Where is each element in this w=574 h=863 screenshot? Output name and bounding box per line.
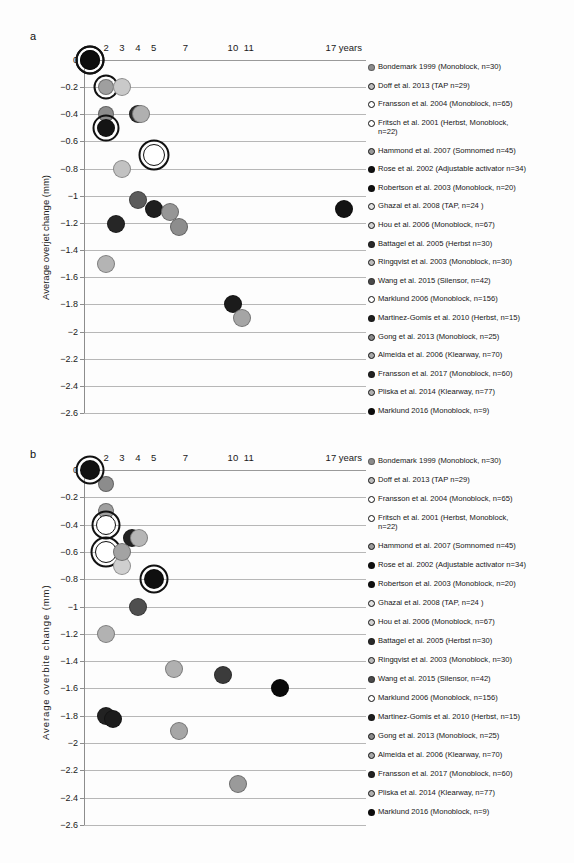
data-point-marker bbox=[335, 200, 353, 218]
gridline bbox=[84, 277, 366, 278]
legend-item-label: Wang et al. 2015 (Silensor, n=42) bbox=[378, 276, 491, 285]
y-axis-tick-label: −1.6 bbox=[44, 684, 78, 693]
legend-marker-icon bbox=[368, 638, 375, 645]
gridline bbox=[84, 497, 366, 498]
legend-marker-icon bbox=[368, 752, 375, 759]
y-axis-tick-label: −0.6 bbox=[44, 547, 78, 556]
legend-item-label: Bondemark 1999 (Monoblock, n=30) bbox=[378, 456, 501, 465]
gridline bbox=[84, 579, 366, 580]
panel-b-plot-area bbox=[84, 470, 366, 825]
legend-item: Fritsch et al. 2001 (Herbst, Monoblock, … bbox=[368, 118, 574, 136]
legend-item-label: Ringqvist et al. 2003 (Monoblock, n=30) bbox=[378, 257, 512, 266]
y-axis-tick-label: −2.2 bbox=[44, 766, 78, 775]
y-axis-tick-mark bbox=[80, 413, 84, 414]
legend-marker-icon bbox=[368, 371, 375, 378]
data-point-marker bbox=[229, 775, 247, 793]
y-axis-tick-label: −1 bbox=[44, 191, 78, 200]
data-point-marker bbox=[97, 625, 115, 643]
legend-item: Gong et al. 2013 (Monoblock, n=25) bbox=[368, 332, 574, 341]
gridline bbox=[84, 223, 366, 224]
data-point-marker bbox=[130, 529, 148, 547]
legend-item-label: Pliska et al. 2014 (Klearway, n=77) bbox=[378, 387, 495, 396]
legend-item: Wang et al. 2015 (Silensor, n=42) bbox=[368, 674, 574, 683]
gridline bbox=[84, 716, 366, 717]
legend-marker-icon bbox=[368, 120, 375, 127]
legend-item-label: Marklund 2016 (Monoblock, n=9) bbox=[378, 406, 489, 415]
legend-item-label: Fransson et al. 2017 (Monoblock, n=60) bbox=[378, 769, 512, 778]
x-axis-tick-label: 2 bbox=[104, 43, 109, 53]
legend-item: Almeida et al. 2006 (Klearway, n=70) bbox=[368, 350, 574, 359]
y-axis-tick-label: −0.2 bbox=[44, 493, 78, 502]
y-axis-tick-label: −2 bbox=[44, 739, 78, 748]
legend-item-label: Fransson et al. 2004 (Monoblock, n=65) bbox=[378, 99, 512, 108]
legend-item-label: Robertson et al. 2003 (Monoblock, n=20) bbox=[378, 579, 516, 588]
y-axis-tick-label: −2.4 bbox=[44, 381, 78, 390]
y-axis-tick-label: 0 bbox=[44, 56, 78, 65]
data-point-marker bbox=[104, 710, 122, 728]
legend-marker-icon bbox=[368, 477, 375, 484]
legend-item-label: Gong et al. 2013 (Monoblock, n=25) bbox=[378, 731, 499, 740]
y-axis-tick-label: −2.6 bbox=[44, 409, 78, 418]
y-axis-tick-label: −0.8 bbox=[44, 164, 78, 173]
legend-item: Fransson et al. 2017 (Monoblock, n=60) bbox=[368, 769, 574, 778]
gridline bbox=[84, 634, 366, 635]
gridline bbox=[84, 470, 366, 471]
y-axis-tick-label: −1 bbox=[44, 602, 78, 611]
legend-item: Fransson et al. 2004 (Monoblock, n=65) bbox=[368, 494, 574, 503]
legend-item-label: Hou et al. 2006 (Monoblock, n=67) bbox=[378, 617, 495, 626]
legend-item-label: Wang et al. 2015 (Silensor, n=42) bbox=[378, 674, 491, 683]
legend-marker-icon bbox=[368, 458, 375, 465]
gridline bbox=[84, 250, 366, 251]
legend-item-label: Gong et al. 2013 (Monoblock, n=25) bbox=[378, 332, 499, 341]
legend-item: Rose et al. 2002 (Adjustable activator n… bbox=[368, 164, 574, 173]
legend-item: Fransson et al. 2004 (Monoblock, n=65) bbox=[368, 99, 574, 108]
x-axis-tick-label: 11 bbox=[244, 43, 254, 53]
legend-marker-icon bbox=[368, 657, 375, 664]
legend-item: Marklund 2006 (Monoblock, n=156) bbox=[368, 294, 574, 303]
y-axis-tick-label: −0.4 bbox=[44, 110, 78, 119]
y-axis-tick-label: −1.2 bbox=[44, 629, 78, 638]
legend-marker-icon bbox=[368, 315, 375, 322]
legend-marker-icon bbox=[368, 562, 375, 569]
y-axis-tick-label: −0.6 bbox=[44, 137, 78, 146]
legend-item: Doff et al. 2013 (TAP n=29) bbox=[368, 81, 574, 90]
x-axis-tick-label: 3 bbox=[119, 43, 124, 53]
legend-item-label: Fransson et al. 2017 (Monoblock, n=60) bbox=[378, 369, 512, 378]
legend-marker-icon bbox=[368, 185, 375, 192]
legend-marker-icon bbox=[368, 64, 375, 71]
legend-marker-icon bbox=[368, 543, 375, 550]
gridline bbox=[84, 196, 366, 197]
legend-item: Ringqvist et al. 2003 (Monoblock, n=30) bbox=[368, 257, 574, 266]
legend-item-label: Rose et al. 2002 (Adjustable activator n… bbox=[378, 560, 526, 569]
legend-item-label: Marklund 2006 (Monoblock, n=156) bbox=[378, 294, 498, 303]
gridline bbox=[84, 413, 366, 414]
panel-a-plot-area bbox=[84, 60, 366, 413]
legend-marker-icon bbox=[368, 733, 375, 740]
legend-item-label: Doff et al. 2013 (TAP n=29) bbox=[378, 81, 470, 90]
legend-item-label: Martinez-Gomis et al. 2010 (Herbst, n=15… bbox=[378, 313, 520, 322]
gridline bbox=[84, 525, 366, 526]
y-axis-tick-label: −1.8 bbox=[44, 300, 78, 309]
legend-marker-icon bbox=[368, 581, 375, 588]
legend-item-label: Fritsch et al. 2001 (Herbst, Monoblock, … bbox=[378, 118, 508, 136]
legend-item: Marklund 2016 (Monoblock, n=9) bbox=[368, 406, 574, 415]
legend-item: Martinez-Gomis et al. 2010 (Herbst, n=15… bbox=[368, 313, 574, 322]
legend-item-label: Martinez-Gomis et al. 2010 (Herbst, n=15… bbox=[378, 712, 520, 721]
gridline bbox=[84, 798, 366, 799]
legend-item: Hou et al. 2006 (Monoblock, n=67) bbox=[368, 220, 574, 229]
legend-item: Ghazal et al. 2008 (TAP, n=24 ) bbox=[368, 598, 574, 607]
data-point-marker bbox=[170, 218, 188, 236]
legend-item-label: Battagel et al. 2005 (Herbst n=30) bbox=[378, 636, 492, 645]
x-axis-tick-label: 10 bbox=[228, 453, 239, 463]
legend-item: Battagel et al. 2005 (Herbst n=30) bbox=[368, 239, 574, 248]
data-point-marker bbox=[97, 255, 115, 273]
panel-b-letter: b bbox=[30, 448, 36, 460]
legend-marker-icon bbox=[368, 101, 375, 108]
x-axis-tick-label: 5 bbox=[151, 43, 156, 53]
gridline bbox=[84, 825, 366, 826]
x-axis-tick-label: 10 bbox=[228, 43, 239, 53]
legend-item: Pliska et al. 2014 (Klearway, n=77) bbox=[368, 387, 574, 396]
legend-item: Ghazal et al. 2008 (TAP, n=24 ) bbox=[368, 201, 574, 210]
legend-item-label: Battagel et al. 2005 (Herbst n=30) bbox=[378, 239, 492, 248]
data-point-marker bbox=[132, 105, 150, 123]
